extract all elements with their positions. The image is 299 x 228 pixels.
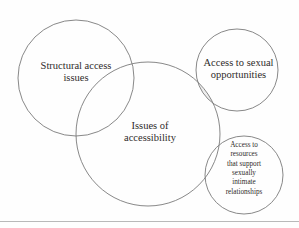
label-access-to-resources: Access to resources that support sexuall… <box>210 141 278 197</box>
label-access-to-sexual-opportunities: Access to sexual opportunities <box>191 57 286 82</box>
label-structural-access-issues: Structural access issues <box>14 60 138 85</box>
bottom-divider <box>0 221 299 222</box>
label-issues-of-accessibility: Issues of accessibility <box>104 120 196 145</box>
venn-diagram-figure: Structural access issues Access to sexua… <box>0 0 299 228</box>
